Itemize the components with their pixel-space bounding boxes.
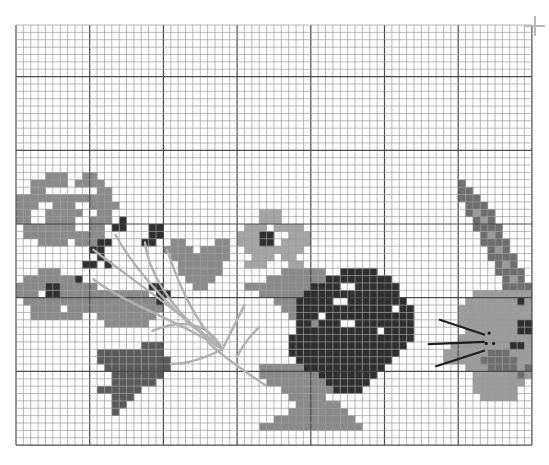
pattern-canvas [0,0,549,465]
crosshair-icon [525,16,545,36]
